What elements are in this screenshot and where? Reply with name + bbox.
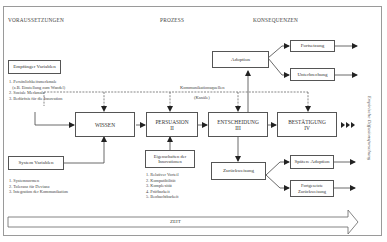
channels-label: Kommunikationsquellen: [180, 85, 225, 90]
stage-name: WISSEN: [95, 122, 115, 128]
stage-number: III: [217, 125, 259, 131]
system-variables-box: System Variablen: [8, 156, 64, 170]
stage-name: PERSUASION: [155, 119, 188, 125]
list-item: 2. Soziale Merkmale: [9, 90, 45, 95]
innovation-properties-list: 1. Relativer Vorteil 2. Kompatibilität 3…: [146, 172, 179, 200]
system-variables-label: System Variablen: [18, 160, 53, 166]
stage-knowledge: WISSEN: [75, 112, 135, 137]
adoption-label: Adoption: [231, 57, 250, 63]
stage-persuasion: PERSUASIONII: [146, 112, 198, 137]
later-adoption-label: Spätere Adoption: [295, 159, 330, 165]
discontinuance-label: Unterbrechung: [298, 72, 328, 78]
stage-name: ENTSCHEIDUNG: [217, 119, 259, 125]
list-item: 4. Prüfbarkeit: [146, 189, 170, 194]
receiver-variables-list: 1. Persönlichkeitsmerkmale (z.B. Einstel…: [9, 79, 65, 101]
continuation-box: Fortsetzung: [290, 40, 335, 52]
channels-sublabel: (Kanäle): [194, 95, 210, 100]
header-consequences: KONSEQUENZEN: [253, 17, 298, 23]
system-variables-list: 1. Systemnormen 2. Toleranz für Devianz …: [9, 178, 68, 195]
receiver-variables-label: Empfänger Variablen: [13, 64, 56, 70]
header-process: PROZESS: [160, 17, 184, 23]
list-item: 1. Persönlichkeitsmerkmale: [9, 79, 57, 84]
rejection-label: Zurückweisung: [223, 168, 254, 174]
list-item: 1. Relativer Vorteil: [146, 172, 179, 177]
list-item: (z.B. Einstellung zum Wandel): [9, 85, 65, 90]
continuation-label: Fortsetzung: [301, 43, 325, 49]
later-adoption-box: Spätere Adoption: [290, 155, 334, 169]
innovation-properties-label: Eigenschaften der Innovationen: [146, 154, 194, 165]
list-item: 2. Toleranz für Devianz: [9, 184, 50, 189]
discontinuance-box: Unterbrechung: [290, 68, 335, 81]
stage-name: BESTÄTIGUNG: [288, 119, 326, 125]
continued-rejection-label: Fortgesetzte Zurückweisung: [291, 183, 333, 194]
innovation-properties-box: Eigenschaften der Innovationen: [145, 150, 195, 168]
empirical-research-label: Empirische Diffusionsforschung: [367, 96, 372, 161]
list-item: 3. Integration der Kommunikation: [9, 189, 68, 194]
list-item: 3. Komplexität: [146, 183, 172, 188]
list-item: 5. Beobachtbarkeit: [146, 194, 178, 199]
time-label: ZEIT: [170, 219, 181, 224]
list-item: 1. Systemnormen: [9, 178, 39, 183]
stage-decision: ENTSCHEIDUNGIII: [208, 112, 268, 137]
receiver-variables-box: Empfänger Variablen: [8, 60, 61, 74]
stage-number: IV: [288, 125, 326, 131]
stage-number: II: [155, 125, 188, 131]
rejection-box: Zurückweisung: [211, 162, 266, 180]
adoption-box: Adoption: [212, 51, 269, 68]
continued-rejection-box: Fortgesetzte Zurückweisung: [290, 180, 334, 197]
stage-confirmation: BESTÄTIGUNGIV: [277, 112, 337, 137]
time-arrow: [8, 210, 358, 234]
header-prerequisites: VORAUSSETZUNGEN: [8, 17, 64, 23]
list-item: 3. Bedürfnis für die Innovation: [9, 96, 62, 101]
list-item: 2. Kompatibilität: [146, 178, 175, 183]
